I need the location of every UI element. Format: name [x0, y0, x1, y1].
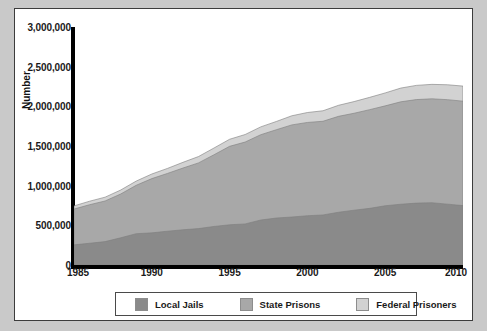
- legend-label: Federal Prisoners: [376, 299, 456, 310]
- legend-label: State Prisons: [260, 299, 321, 310]
- x-axis-tick-labels: 198519901995200020052010: [74, 267, 463, 283]
- x-tick-label: 2010: [445, 267, 467, 278]
- legend-item[interactable]: Federal Prisoners: [356, 293, 456, 315]
- plot-area: [74, 19, 463, 265]
- y-tick-label: 2,000,000: [13, 101, 71, 112]
- chart-legend: Local JailsState PrisonsFederal Prisoner…: [115, 292, 417, 316]
- y-tick-label: 2,500,000: [13, 61, 71, 72]
- legend-label: Local Jails: [155, 299, 204, 310]
- y-tick-label: 1,000,000: [13, 180, 71, 191]
- x-tick-label: 1995: [218, 267, 240, 278]
- x-tick-label: 2000: [296, 267, 318, 278]
- plot-inner: [74, 27, 463, 265]
- y-tick-label: 500,000: [13, 220, 71, 231]
- x-tick-label: 1990: [141, 267, 163, 278]
- y-tick-label: 1,500,000: [13, 141, 71, 152]
- chart-figure: Number 0500,0001,000,0001,500,0002,000,0…: [14, 8, 473, 321]
- x-tick-label: 1985: [67, 267, 89, 278]
- stacked-area-series: [74, 27, 463, 265]
- legend-swatch-icon: [240, 298, 253, 311]
- legend-item[interactable]: Local Jails: [135, 293, 204, 315]
- y-axis-tick-labels: 0500,0001,000,0001,500,0002,000,0002,500…: [15, 19, 71, 265]
- legend-swatch-icon: [135, 298, 148, 311]
- x-tick-label: 2005: [374, 267, 396, 278]
- y-tick-label: 0: [13, 260, 71, 271]
- legend-item[interactable]: State Prisons: [240, 293, 321, 315]
- legend-swatch-icon: [356, 298, 369, 311]
- y-tick-label: 3,000,000: [13, 22, 71, 33]
